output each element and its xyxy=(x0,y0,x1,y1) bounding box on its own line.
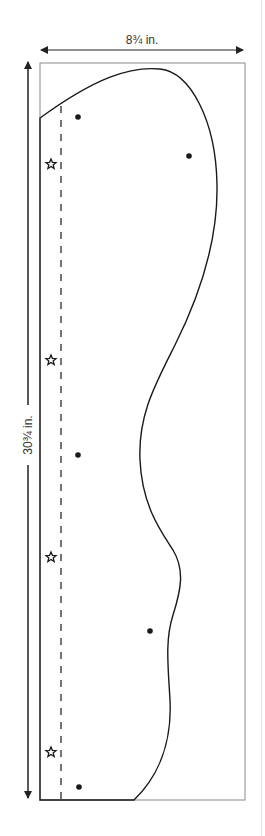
height-dimension: 30¾ in. xyxy=(18,62,38,798)
star-notch-icon xyxy=(46,747,56,757)
star-notch-icon xyxy=(46,159,56,169)
width-label: 8¾ in. xyxy=(126,33,159,47)
dot-marker-icon xyxy=(76,784,82,790)
dot-marker-icon xyxy=(75,114,81,120)
width-dimension: 8¾ in. xyxy=(41,33,243,50)
height-label: 30¾ in. xyxy=(21,415,35,454)
dot-marker-icon xyxy=(186,153,192,159)
star-notch-icon xyxy=(46,552,56,562)
dot-markers xyxy=(75,114,192,790)
dot-marker-icon xyxy=(75,452,81,458)
dot-marker-icon xyxy=(147,628,153,634)
bounding-frame xyxy=(40,63,245,800)
star-markers xyxy=(46,159,56,757)
pattern-diagram: 8¾ in. 30¾ in. xyxy=(0,0,265,836)
star-notch-icon xyxy=(46,355,56,365)
pattern-outline xyxy=(40,69,217,800)
